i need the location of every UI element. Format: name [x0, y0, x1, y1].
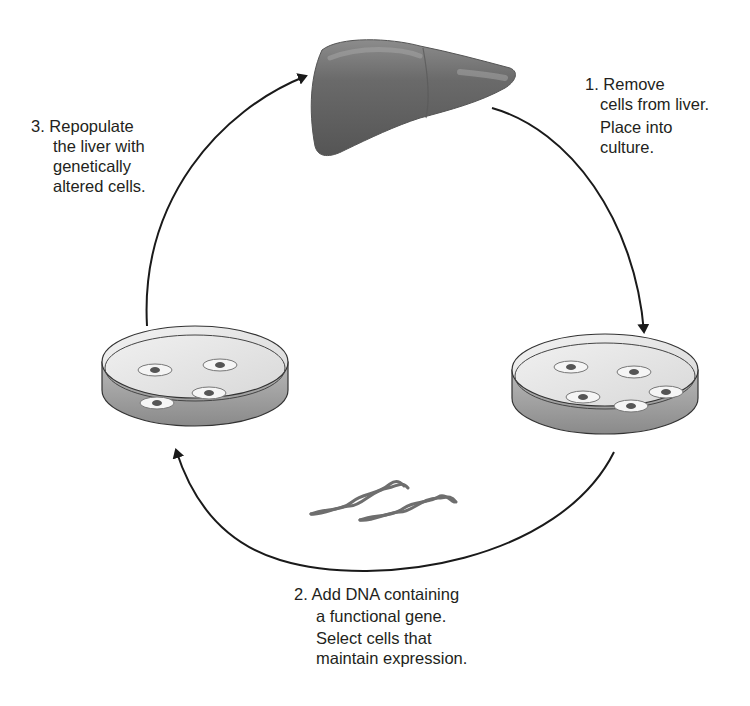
step-2-line-4: maintain expression.: [294, 648, 467, 668]
step-2-line-3: Select cells that: [294, 628, 467, 648]
cell-icon: [649, 386, 683, 398]
step-2-line-1: Add DNA containing: [311, 585, 459, 603]
petri-dish-icon-left: [102, 326, 288, 426]
cell-icon: [192, 387, 226, 399]
step-1-line-2: cells from liver.: [585, 94, 709, 114]
step-1-line-4: culture.: [585, 137, 709, 157]
petri-dish-icon-right: [512, 334, 698, 434]
liver-icon: [311, 40, 515, 156]
cell-icon: [614, 400, 648, 412]
cycle-arrows: [147, 76, 644, 571]
cell-icon: [566, 391, 600, 403]
step-1-line-1: Remove: [603, 75, 664, 93]
step-2-line-2: a functional gene.: [294, 606, 467, 626]
cell-icon: [554, 361, 588, 373]
step-2-number: 2.: [294, 585, 308, 603]
dna-icon: [311, 481, 456, 520]
arrow-step-3: [147, 76, 306, 326]
step-1-line-3: Place into: [585, 117, 709, 137]
arrow-step-2: [176, 450, 614, 571]
cell-icon: [140, 397, 174, 409]
cell-icon: [138, 364, 172, 376]
step-3-label: 3. Repopulate the liver with genetically…: [31, 116, 146, 196]
step-3-line-2: the liver with: [31, 136, 146, 156]
step-2-label: 2. Add DNA containing a functional gene.…: [294, 584, 467, 668]
step-3-line-4: altered cells.: [31, 176, 146, 196]
cell-icon: [203, 359, 237, 371]
step-1-number: 1.: [585, 75, 599, 93]
step-3-line-3: genetically: [31, 156, 146, 176]
step-3-number: 3.: [31, 117, 45, 135]
step-1-label: 1. Remove cells from liver. Place into c…: [585, 74, 709, 157]
cell-icon: [617, 366, 651, 378]
step-3-line-1: Repopulate: [49, 117, 133, 135]
